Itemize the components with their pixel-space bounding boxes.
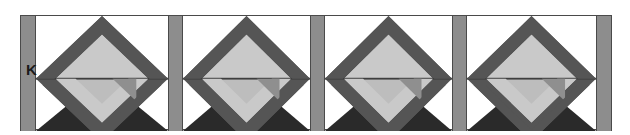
diamond-motif: [467, 16, 596, 131]
centre-rule: [325, 78, 452, 80]
diamond-motif: [183, 16, 310, 131]
pilaster-2: [168, 16, 183, 131]
motif-2: [183, 16, 310, 131]
motif-1: [36, 16, 168, 131]
frieze-figure: K: [0, 0, 630, 135]
frieze-band: [20, 15, 612, 130]
diamond-motif: [325, 16, 452, 131]
diamond-motif: [36, 16, 168, 131]
motif-4: [467, 16, 596, 131]
centre-rule: [183, 78, 310, 80]
motif-3: [325, 16, 452, 131]
pilaster-4: [452, 16, 467, 131]
label-k: K: [26, 62, 37, 77]
pilaster-5: [596, 16, 612, 131]
pilaster-3: [310, 16, 325, 131]
centre-rule: [36, 78, 168, 80]
